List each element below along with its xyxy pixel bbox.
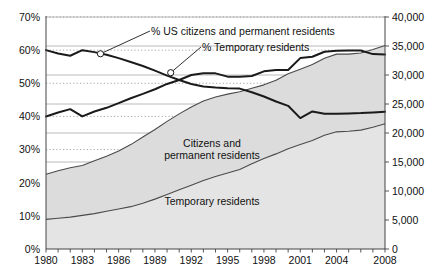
annotation-area-citizens-line2: permanent residents [164,149,260,161]
y-right-tick-label-0: 0 [392,243,398,255]
callout-marker-us-citizens [97,51,103,57]
y-right-tick-label-30000: 30,000 [392,69,424,81]
annotation-area-temporary: Temporary residents [164,195,259,207]
y-left-tick-label-50: 50% [19,77,40,89]
y-right-tick-label-10000: 10,000 [392,185,424,197]
annotation-area-citizens-line1: Citizens and [183,137,241,149]
x-tick-label-1983: 1983 [71,254,95,266]
y-left-tick-label-0: 0% [25,243,40,255]
y-right-tick-label-25000: 25,000 [392,98,424,110]
x-tick-label-1998: 1998 [252,254,276,266]
callout-marker-temporary [168,70,174,76]
x-tick-label-1995: 1995 [216,254,240,266]
immigration-composition-chart: 0%10%20%30%40%50%60%70%05,00010,00015,00… [0,0,427,274]
y-left-tick-label-70: 70% [19,11,40,23]
x-tick-label-2004: 2004 [325,254,349,266]
y-right-tick-label-40000: 40,000 [392,11,424,23]
x-tick-label-2001: 2001 [289,254,313,266]
y-right-tick-label-35000: 35,000 [392,40,424,52]
annotation-pct-temporary: % Temporary residents [202,41,309,53]
y-left-tick-label-60: 60% [19,44,40,56]
y-left-tick-label-20: 20% [19,177,40,189]
x-tick-label-2008: 2008 [373,254,397,266]
y-right-tick-label-5000: 5,000 [392,214,418,226]
y-left-tick-label-40: 40% [19,110,40,122]
x-tick-label-1992: 1992 [180,254,204,266]
x-tick-label-1986: 1986 [107,254,131,266]
chart-container: 0%10%20%30%40%50%60%70%05,00010,00015,00… [0,0,427,274]
y-right-tick-label-15000: 15,000 [392,156,424,168]
annotation-pct-us-citizens: % US citizens and permanent residents [151,25,335,37]
y-right-tick-label-20000: 20,000 [392,127,424,139]
x-tick-label-1980: 1980 [34,254,58,266]
x-tick-label-1989: 1989 [143,254,167,266]
y-left-tick-label-10: 10% [19,210,40,222]
y-left-tick-label-30: 30% [19,143,40,155]
